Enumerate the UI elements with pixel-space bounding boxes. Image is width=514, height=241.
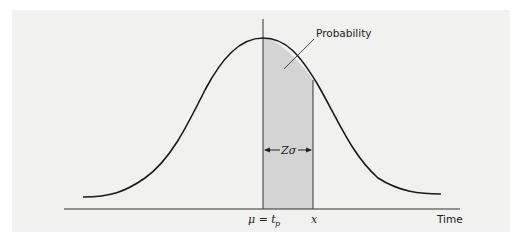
- probability-label: Probability: [316, 27, 372, 39]
- shaded-probability-region: [263, 38, 313, 209]
- bell-curve: [83, 38, 441, 197]
- z-sigma-label: Zσ: [280, 144, 297, 157]
- mean-label-subscript: p: [275, 219, 280, 228]
- normal-curve-diagram: Probability Zσ μ = t p x Time: [0, 0, 514, 241]
- x-label: x: [311, 213, 318, 226]
- mean-label: μ = t: [248, 213, 276, 226]
- time-axis-label: Time: [436, 213, 463, 225]
